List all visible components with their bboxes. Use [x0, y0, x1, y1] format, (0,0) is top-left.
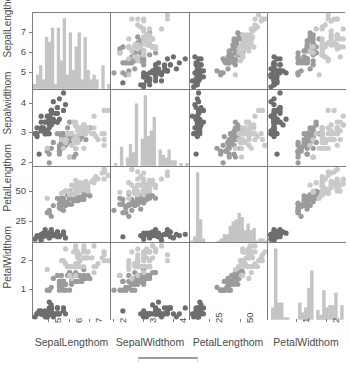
x-tick-mark — [173, 319, 174, 322]
y-tick-mark — [29, 221, 32, 222]
x-tick-label: 1 — [300, 318, 311, 323]
panel-petalwidth-vs-sepallength — [33, 243, 111, 320]
x-tick-mark — [113, 319, 114, 322]
y-tick-label: 25 — [15, 216, 26, 226]
x-tick-mark — [48, 319, 49, 322]
panel-petallength-vs-petallength — [190, 167, 268, 244]
panel-petallength-vs-sepallength — [33, 167, 111, 244]
panel-sepalwidth-vs-sepalwidth — [111, 90, 189, 167]
panel-sepallength-vs-petallength — [190, 13, 268, 90]
panel-sepalwidth-vs-petallength — [190, 90, 268, 167]
x-axis-label-sepal-length: SepalLengthom — [32, 336, 111, 348]
x-tick-mark — [326, 319, 327, 322]
x-tick-label: 50 — [244, 312, 255, 323]
x-axis-label-sepal-width: SepalWidthom — [111, 336, 189, 348]
y-tick-label: 50 — [15, 186, 26, 196]
x-tick-label: 6 — [73, 318, 84, 323]
y-tick-label: 2 — [21, 255, 26, 265]
y-tick-mark — [29, 132, 32, 133]
scale-bar — [138, 357, 198, 362]
scatter-matrix — [32, 12, 345, 319]
x-tick-label: 2 — [330, 318, 341, 323]
y-tick-label: 2 — [21, 157, 26, 167]
y-tick-mark — [29, 52, 32, 53]
x-tick-mark — [69, 319, 70, 322]
x-tick-label: 3 — [147, 318, 158, 323]
x-tick-label: 7 — [93, 318, 104, 323]
panel-sepalwidth-vs-petalwidth — [268, 90, 346, 167]
y-tick-mark — [29, 289, 32, 290]
x-tick-mark — [240, 319, 241, 322]
y-tick-mark — [29, 32, 32, 33]
x-tick-mark — [209, 319, 210, 322]
panel-petalwidth-vs-sepalwidth — [111, 243, 189, 320]
y-axis-label-petal-width: PetalWidthom — [0, 243, 14, 320]
y-tick-label: 6 — [21, 47, 26, 57]
x-tick-mark — [296, 319, 297, 322]
x-tick-mark — [89, 319, 90, 322]
panel-petallength-vs-petalwidth — [268, 167, 346, 244]
panel-sepallength-vs-petalwidth — [268, 13, 346, 90]
y-tick-label: 3 — [21, 127, 26, 137]
x-axis-label-petal-length: PetalLengthom — [189, 336, 267, 348]
y-tick-mark — [29, 191, 32, 192]
panel-sepallength-vs-sepalwidth — [111, 13, 189, 90]
x-tick-label: 5 — [52, 318, 63, 323]
x-tick-label: 4 — [177, 318, 188, 323]
panel-sepalwidth-vs-sepallength — [33, 90, 111, 167]
panel-sepallength-vs-sepallength — [33, 13, 111, 90]
x-axis-label-petal-width: PetalWidthom — [267, 336, 345, 348]
y-tick-label: 5 — [21, 67, 26, 77]
x-tick-label: 2 — [117, 318, 128, 323]
y-tick-label: 1 — [21, 284, 26, 294]
y-tick-mark — [29, 103, 32, 104]
panel-petallength-vs-sepalwidth — [111, 167, 189, 244]
panel-petalwidth-vs-petalwidth — [268, 243, 346, 320]
y-tick-mark — [29, 72, 32, 73]
y-tick-mark — [29, 162, 32, 163]
y-tick-label: 4 — [21, 98, 26, 108]
pairs-plot-figure: SepalLengthom Sepalwidthom PetalLengthom… — [0, 0, 350, 368]
x-tick-label: 25 — [213, 312, 224, 323]
y-tick-label: 7 — [21, 27, 26, 37]
panel-petalwidth-vs-petallength — [190, 243, 268, 320]
x-tick-mark — [143, 319, 144, 322]
y-tick-mark — [29, 260, 32, 261]
